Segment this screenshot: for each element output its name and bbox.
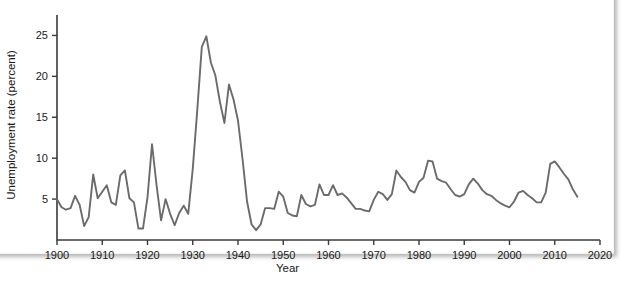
x-tick-label: 1970 <box>362 249 386 261</box>
x-axis-title: Year <box>276 262 299 274</box>
unemployment-rate-line <box>57 36 577 230</box>
y-tick-label: 15 <box>36 111 48 123</box>
x-tick-label: 1950 <box>271 249 295 261</box>
x-tick-label: 2010 <box>543 249 567 261</box>
x-tick-labels: 1900191019201930194019501960197019801990… <box>45 249 612 261</box>
y-axis-title: Unemployment rate (percent) <box>5 50 17 200</box>
x-tick-label: 1960 <box>316 249 340 261</box>
figure-container: 1900191019201930194019501960197019801990… <box>0 0 629 294</box>
x-tick-label: 1990 <box>452 249 476 261</box>
x-tick-label: 1900 <box>45 249 69 261</box>
x-tick-label: 1940 <box>226 249 250 261</box>
y-tick-label: 25 <box>36 29 48 41</box>
y-tick-label: 10 <box>36 152 48 164</box>
y-axis-title-wrap: Unemployment rate (percent) <box>0 0 22 250</box>
ticks-group <box>52 35 600 245</box>
x-tick-label: 1930 <box>181 249 205 261</box>
y-tick-labels: 510152025 <box>36 29 48 205</box>
x-tick-label: 1920 <box>135 249 159 261</box>
y-tick-label: 5 <box>42 193 48 205</box>
x-tick-label: 2020 <box>588 249 612 261</box>
x-tick-label: 2000 <box>497 249 521 261</box>
y-tick-label: 20 <box>36 70 48 82</box>
x-axis-title-wrap: Year <box>0 262 575 274</box>
x-tick-label: 1980 <box>407 249 431 261</box>
unemployment-line-chart: 1900191019201930194019501960197019801990… <box>0 0 629 294</box>
x-tick-label: 1910 <box>90 249 114 261</box>
axes-group <box>57 15 600 240</box>
